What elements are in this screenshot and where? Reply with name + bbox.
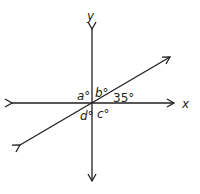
angle-d-label: d° <box>80 109 94 123</box>
angle-diagram: y x a° b° 35° d° c° <box>0 0 200 194</box>
transversal-line <box>20 57 170 145</box>
angle-c-label: c° <box>97 107 110 121</box>
y-axis-label: y <box>86 9 95 23</box>
angle-a-label: a° <box>77 89 90 103</box>
x-axis-label: x <box>181 97 190 111</box>
angle-35-label: 35° <box>113 91 134 105</box>
angle-b-label: b° <box>95 86 109 100</box>
